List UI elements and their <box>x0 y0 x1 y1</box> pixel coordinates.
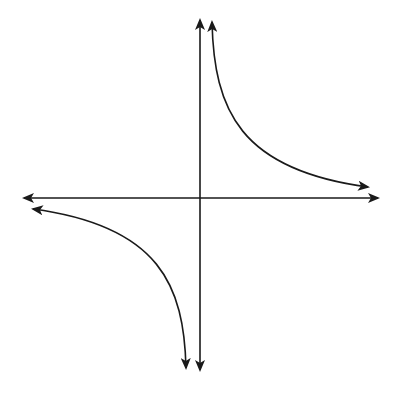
hyperbola-diagram <box>0 0 397 396</box>
quadrant-I-branch <box>212 22 368 187</box>
quadrant-III-branch <box>33 209 186 368</box>
